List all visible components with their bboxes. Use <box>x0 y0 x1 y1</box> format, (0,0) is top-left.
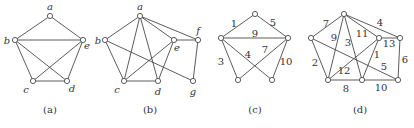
graph-vertex <box>12 37 17 42</box>
graph-vertex <box>395 77 400 82</box>
vertex-label: c <box>114 84 120 95</box>
vertex-label: d <box>69 83 75 94</box>
graph-edge <box>50 16 83 40</box>
graph-vertex <box>325 77 330 82</box>
graph-edge <box>398 38 400 80</box>
graph-edge <box>221 14 255 38</box>
graph-edge <box>344 14 400 38</box>
vertex-label: d <box>155 86 161 97</box>
vertex-label: f <box>195 25 202 36</box>
graph-edge <box>15 40 33 81</box>
graph-edge <box>328 38 379 80</box>
edge-weight-label: 12 <box>338 65 351 76</box>
graph-vertex <box>269 77 274 82</box>
graph-edge <box>124 40 174 81</box>
graph-vertex <box>102 37 107 42</box>
graph-vertex <box>308 35 313 40</box>
edge-weight-label: 7 <box>323 18 329 29</box>
graph-edge <box>193 40 198 81</box>
edge-weight-label: 8 <box>343 83 349 94</box>
graph-vertex <box>235 77 240 82</box>
edge-weight-label: 2 <box>312 57 318 68</box>
graph-vertex <box>218 35 223 40</box>
graph-edge <box>105 40 124 81</box>
subfigure-caption: (b) <box>143 104 157 115</box>
vertex-label: b <box>95 35 101 46</box>
graph-vertex <box>376 35 381 40</box>
graph-vertex <box>341 11 346 16</box>
subfigure-caption: (c) <box>248 104 262 115</box>
vertex-label: a <box>137 1 143 12</box>
vertex-label: c <box>23 84 29 95</box>
graph-vertex <box>285 35 290 40</box>
subfigure-caption: (d) <box>353 104 367 115</box>
graph-vertex <box>195 37 200 42</box>
edge-weight-label: 10 <box>280 56 293 67</box>
edge-weight-label: 5 <box>381 61 387 72</box>
vertex-label: e <box>174 42 180 53</box>
edge-weight-label: 4 <box>245 49 251 60</box>
graph-vertex <box>359 77 364 82</box>
graph-vertex <box>30 78 35 83</box>
graph-figure: abecd(a)abefcdg(b)15934710(c)74931113251… <box>0 0 414 128</box>
edge-weight-label: 9 <box>331 32 337 43</box>
subfigure-caption: (a) <box>43 104 57 115</box>
edge-weight-label: 10 <box>375 82 388 93</box>
vertex-label: a <box>47 1 53 12</box>
graph-edge <box>15 16 50 40</box>
edge-weight-label: 9 <box>252 28 258 39</box>
edge-weight-label: 3 <box>218 56 224 67</box>
edge-weight-label: 4 <box>377 17 383 28</box>
graph-vertex <box>121 78 126 83</box>
edge-weight-label: 3 <box>345 37 351 48</box>
edge-weight-label: 6 <box>402 54 408 65</box>
graph-vertex <box>137 13 142 18</box>
graph-vertex <box>155 78 160 83</box>
edge-weight-label: 1 <box>231 18 237 29</box>
vertex-label: b <box>4 35 10 46</box>
edge-weight-label: 5 <box>270 17 276 28</box>
vertex-label: g <box>190 86 196 97</box>
graph-vertex <box>190 78 195 83</box>
graph-vertex <box>252 11 257 16</box>
edge-weight-label: 11 <box>356 28 369 39</box>
edge-weight-label: 1 <box>374 49 380 60</box>
graph-vertex <box>47 13 52 18</box>
labels-layer: abecd(a)abefcdg(b)15934710(c)74931113251… <box>4 1 408 115</box>
edge-weight-label: 7 <box>262 44 268 55</box>
graph-vertex <box>397 35 402 40</box>
graph-edge <box>140 16 158 81</box>
edge-weight-label: 13 <box>383 38 396 49</box>
vertex-label: e <box>84 40 90 51</box>
